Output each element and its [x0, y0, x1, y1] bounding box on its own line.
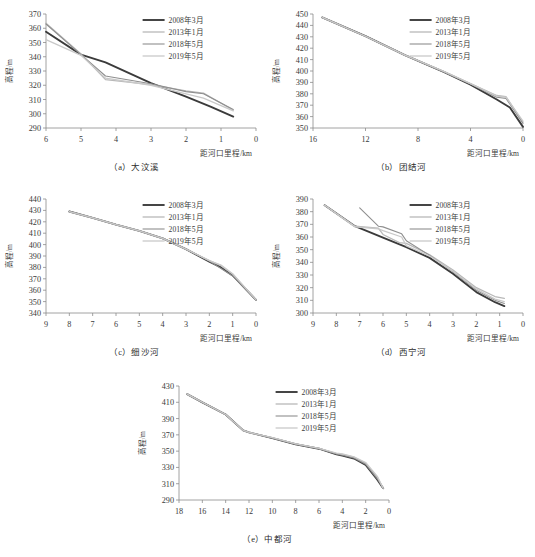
legend-label: 2019年5月 [169, 51, 204, 61]
y-tick-label: 300 [29, 110, 41, 119]
y-tick-label: 340 [29, 309, 41, 318]
x-tick-label: 5 [137, 320, 141, 329]
y-tick-label: 350 [29, 298, 41, 307]
axis-lines [313, 199, 523, 313]
legend-label: 2013年1月 [436, 27, 471, 37]
x-tick-label: 8 [416, 135, 420, 144]
series-line-2019年5月 [69, 212, 256, 300]
legend-label: 2018年5月 [436, 39, 471, 49]
x-tick-label: 2 [184, 135, 188, 144]
y-tick-label: 420 [29, 218, 41, 227]
caption-e: （e）中都河 [133, 532, 401, 544]
x-tick-label: 4 [161, 320, 165, 329]
y-tick-label: 430 [296, 33, 308, 42]
x-tick-label: 10 [268, 507, 276, 516]
series-line-2019年5月 [325, 205, 505, 301]
x-tick-label: 4 [114, 135, 118, 144]
y-tick-label: 290 [162, 496, 174, 505]
y-tick-label: 370 [296, 101, 308, 110]
y-tick-label: 380 [296, 208, 308, 217]
x-tick-label: 2 [364, 507, 368, 516]
y-tick-label: 320 [296, 284, 308, 293]
legend-label: 2018年5月 [302, 411, 337, 421]
chart-b: 3503603703803904004104204304404501612840… [267, 0, 535, 168]
x-tick-label: 6 [317, 507, 321, 516]
x-tick-label: 6 [114, 320, 118, 329]
y-tick-label: 360 [296, 113, 308, 122]
x-tick-label: 4 [428, 320, 432, 329]
legend-label: 2008年3月 [436, 200, 471, 210]
x-tick-label: 5 [404, 320, 408, 329]
y-tick-label: 350 [296, 124, 308, 133]
y-tick-label: 410 [162, 398, 174, 407]
y-tick-label: 440 [296, 21, 308, 30]
y-tick-label: 310 [162, 480, 174, 489]
x-tick-label: 2 [207, 320, 211, 329]
legend-label: 2008年3月 [169, 15, 204, 25]
caption-a: （a）大汶溪 [0, 160, 268, 172]
y-axis-title: 高程/m [271, 244, 281, 268]
y-tick-label: 340 [29, 53, 41, 62]
x-tick-label: 3 [451, 320, 455, 329]
legend-label: 2019年5月 [302, 423, 337, 433]
x-axis-title: 距河口里程/km [200, 334, 252, 343]
chart-c: 3403503603703803904004104204304409876543… [0, 185, 268, 353]
x-tick-label: 0 [521, 320, 525, 329]
y-tick-label: 370 [29, 10, 41, 19]
chart-e: 290310330350370390410430181614121086420高… [133, 372, 401, 540]
y-tick-label: 400 [296, 67, 308, 76]
y-tick-label: 370 [29, 275, 41, 284]
y-tick-label: 360 [29, 286, 41, 295]
y-axis-title: 高程/m [4, 244, 14, 268]
x-tick-label: 6 [381, 320, 385, 329]
axis-lines [313, 14, 523, 128]
x-tick-label: 9 [44, 320, 48, 329]
legend-label: 2018年5月 [169, 39, 204, 49]
axis-lines [46, 14, 256, 128]
y-tick-label: 410 [29, 229, 41, 238]
panel-b: 3503603703803904004104204304404501612840… [267, 0, 535, 185]
x-tick-label: 14 [222, 507, 230, 516]
legend-label: 2013年1月 [436, 212, 471, 222]
legend-label: 2008年3月 [436, 15, 471, 25]
x-axis-title: 距河口里程/km [467, 149, 519, 158]
x-axis-title: 距河口里程/km [333, 521, 385, 530]
legend-label: 2019年5月 [436, 51, 471, 61]
panel-a: 2903003103203303403503603706543210高程/m距河… [0, 0, 268, 185]
x-tick-label: 4 [468, 135, 472, 144]
panel-e: 290310330350370390410430181614121086420高… [133, 372, 401, 557]
y-tick-label: 330 [29, 67, 41, 76]
panel-c: 3403503603703803904004104204304409876543… [0, 185, 268, 370]
series-line-2013年1月 [46, 23, 233, 110]
legend-label: 2013年1月 [302, 399, 337, 409]
legend-label: 2019年5月 [169, 236, 204, 246]
y-tick-label: 320 [29, 81, 41, 90]
y-tick-label: 350 [296, 246, 308, 255]
chart-a: 2903003103203303403503603706543210高程/m距河… [0, 0, 268, 168]
y-axis-title: 高程/m [271, 59, 281, 83]
series-line-2013年1月 [69, 212, 256, 300]
x-tick-label: 12 [245, 507, 253, 516]
series-line-2018年5月 [322, 17, 523, 123]
legend-label: 2019年5月 [436, 236, 471, 246]
series-line-2018年5月 [46, 24, 233, 109]
y-tick-label: 370 [296, 220, 308, 229]
x-tick-label: 2 [474, 320, 478, 329]
y-tick-label: 300 [296, 309, 308, 318]
panel-d: 3003103203303403503603703803909876543210… [267, 185, 535, 370]
axis-lines [179, 386, 389, 500]
x-tick-label: 4 [340, 507, 344, 516]
legend-label: 2018年5月 [169, 224, 204, 234]
y-tick-label: 350 [162, 447, 174, 456]
x-tick-label: 1 [498, 320, 502, 329]
y-tick-label: 440 [29, 195, 41, 204]
x-tick-label: 3 [149, 135, 153, 144]
x-tick-label: 7 [91, 320, 95, 329]
series-line-2019年5月 [322, 17, 523, 121]
y-tick-label: 290 [29, 124, 41, 133]
legend-label: 2013年1月 [169, 27, 204, 37]
x-tick-label: 0 [521, 135, 525, 144]
x-tick-label: 0 [254, 320, 258, 329]
x-tick-label: 9 [311, 320, 315, 329]
series-line-2019年5月 [187, 394, 383, 488]
